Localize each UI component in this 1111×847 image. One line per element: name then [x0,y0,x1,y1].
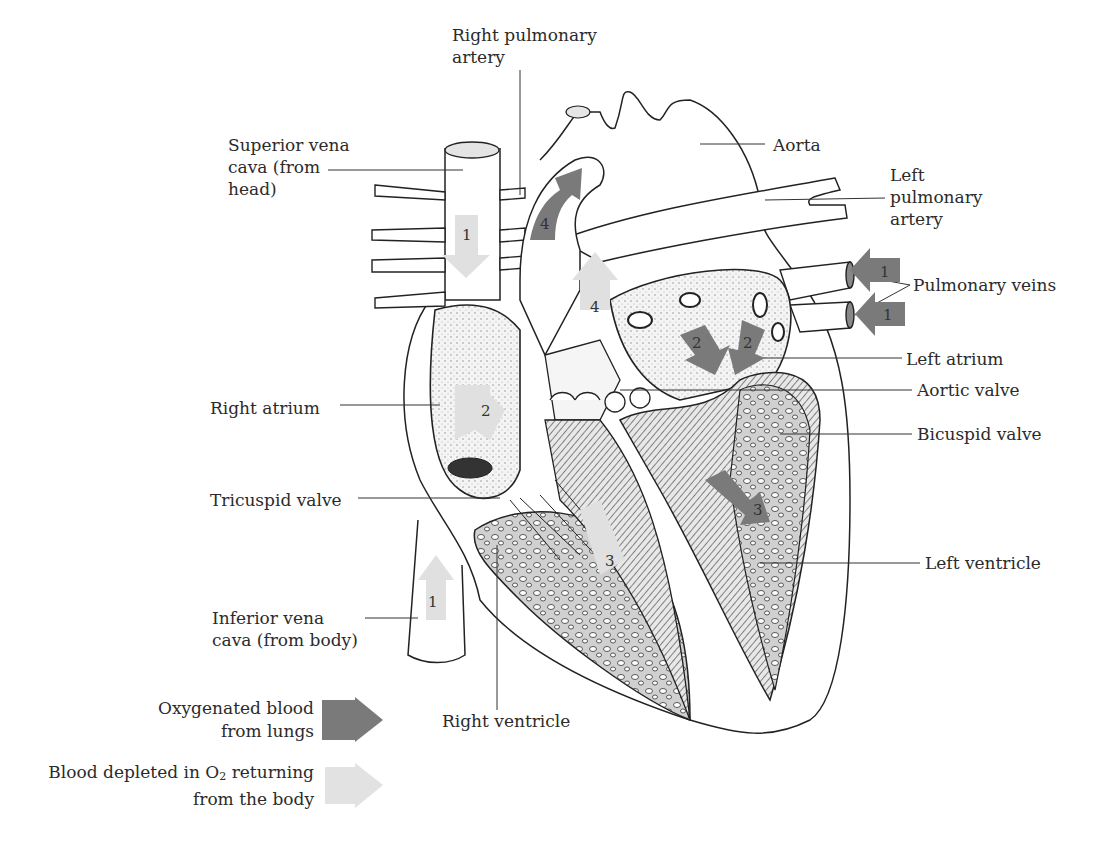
step-pa-lower: 4 [590,298,600,316]
legend-deoxygenated-text: Blood depleted in O2 returning from the … [48,761,314,811]
aorta-branch-opening [566,106,590,118]
label-left-ventricle: Left ventricle [925,552,1041,574]
step-svc: 1 [462,226,472,244]
label-left-pulmonary-artery: Left pulmonary artery [890,164,982,230]
pv-top-arrow [850,248,900,292]
label-right-pulmonary-artery: Right pulmonary artery [452,24,597,68]
legend-deoxygenated-arrow [325,763,383,808]
label-inferior-vena-cava: Inferior vena cava (from body) [212,607,358,651]
label-right-ventricle: Right ventricle [442,710,570,732]
step-la-right: 2 [743,334,753,352]
legend-oxygenated-text: Oxygenated blood from lungs [158,697,314,743]
label-left-atrium: Left atrium [906,348,1003,370]
label-aortic-valve: Aortic valve [917,379,1020,401]
step-ivc: 1 [428,593,438,611]
pv-bottom-arrow [855,292,905,336]
label-pulmonary-veins: Pulmonary veins [913,274,1056,296]
step-la-left: 2 [692,334,702,352]
legend-oxygenated-arrow [322,697,383,742]
label-right-atrium: Right atrium [210,397,320,419]
label-aorta: Aorta [773,134,821,156]
ra-opening [448,458,492,478]
label-tricuspid-valve: Tricuspid valve [210,489,342,511]
step-pv-top: 1 [880,263,890,281]
label-bicuspid-valve: Bicuspid valve [917,423,1042,445]
step-pa-upper: 4 [540,215,550,233]
svc-opening [445,142,499,158]
step-ra: 2 [481,402,491,420]
step-rv: 3 [605,552,615,570]
step-pv-bottom: 1 [883,306,893,324]
step-lv: 3 [753,501,763,519]
label-superior-vena-cava: Superior vena cava (from head) [228,134,350,200]
